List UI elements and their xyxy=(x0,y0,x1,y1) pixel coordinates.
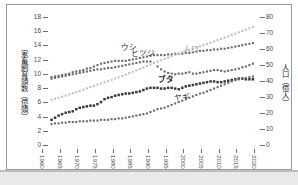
bottom-tick xyxy=(201,149,202,153)
series-label-hitsuji: ヒツジ xyxy=(131,50,155,58)
right-tick-label: 10 xyxy=(266,126,273,133)
right-tick xyxy=(260,97,265,98)
left-tick xyxy=(43,17,48,18)
x-tick-label: 2015 xyxy=(233,155,239,169)
bottom-tick xyxy=(130,149,131,153)
series-ushi xyxy=(50,42,254,78)
left-tick-label: 16 xyxy=(27,28,41,35)
series-label-buta: ブタ xyxy=(158,76,174,84)
series-yagi xyxy=(50,75,254,125)
right-tick-label: 60 xyxy=(266,46,273,53)
left-tick-label: 18 xyxy=(27,14,41,21)
chart-screenshot: 家畜飼育頭数（億頭） 人口（億人） ウシ ヒツジ ブタ ヤギ 人口 024681… xyxy=(0,0,298,185)
x-tick-label: 2000 xyxy=(180,155,186,169)
left-tick xyxy=(43,88,48,89)
plot-area: ウシ ヒツジ ブタ ヤギ 人口 xyxy=(48,21,260,149)
bottom-tick xyxy=(236,149,237,153)
bottom-band xyxy=(0,172,298,185)
bottom-tick xyxy=(42,149,43,153)
bottom-tick xyxy=(60,149,61,153)
right-tick xyxy=(260,145,265,146)
x-tick-label: 1995 xyxy=(163,155,169,169)
bottom-tick xyxy=(95,149,96,153)
right-tick xyxy=(260,129,265,130)
left-tick xyxy=(43,31,48,32)
series-label-jinko: 人口 xyxy=(183,46,199,54)
series-jinko xyxy=(50,26,254,101)
right-tick-label: 50 xyxy=(266,62,273,69)
series-label-yagi: ヤギ xyxy=(174,94,190,102)
left-tick xyxy=(43,102,48,103)
bottom-tick xyxy=(148,149,149,153)
x-tick-label: 1960 xyxy=(39,155,45,169)
x-tick-label: 2005 xyxy=(198,155,204,169)
left-tick-label: 4 xyxy=(27,113,41,120)
bottom-tick xyxy=(219,149,220,153)
right-tick xyxy=(260,33,265,34)
left-tick-label: 2 xyxy=(27,128,41,135)
right-tick-label: 40 xyxy=(266,78,273,85)
x-tick-label: 1985 xyxy=(127,155,133,169)
x-tick-label: 2020 xyxy=(251,155,257,169)
bottom-tick xyxy=(254,149,255,153)
right-tick xyxy=(260,49,265,50)
left-tick-label: 0 xyxy=(27,142,41,149)
bottom-tick xyxy=(113,149,114,153)
series-hitsuji xyxy=(50,60,254,79)
x-tick-label: 1965 xyxy=(57,155,63,169)
x-tick-label: 1975 xyxy=(92,155,98,169)
x-tick-label: 1970 xyxy=(74,155,80,169)
left-tick xyxy=(43,74,48,75)
left-tick xyxy=(43,131,48,132)
left-tick xyxy=(43,117,48,118)
series-buta xyxy=(50,77,254,121)
x-tick-label: 1990 xyxy=(145,155,151,169)
left-tick-label: 10 xyxy=(27,71,41,78)
right-tick-label: 70 xyxy=(266,30,273,37)
right-tick xyxy=(260,65,265,66)
left-tick xyxy=(43,145,48,146)
x-tick-label: 2010 xyxy=(216,155,222,169)
left-tick-label: 6 xyxy=(27,99,41,106)
left-tick-label: 12 xyxy=(27,56,41,63)
right-tick-label: 80 xyxy=(266,14,273,21)
bottom-tick xyxy=(166,149,167,153)
bottom-tick xyxy=(183,149,184,153)
left-tick-label: 8 xyxy=(27,85,41,92)
right-axis-title: 人口（億人） xyxy=(279,47,291,121)
left-tick xyxy=(43,60,48,61)
right-tick-label: 0 xyxy=(266,142,270,149)
x-tick-label: 1980 xyxy=(110,155,116,169)
left-tick-label: 14 xyxy=(27,42,41,49)
series-svg xyxy=(48,21,260,149)
chart-frame: 家畜飼育頭数（億頭） 人口（億人） ウシ ヒツジ ブタ ヤギ 人口 024681… xyxy=(6,4,292,170)
right-tick xyxy=(260,81,265,82)
right-tick xyxy=(260,113,265,114)
bottom-tick xyxy=(77,149,78,153)
left-tick xyxy=(43,45,48,46)
right-tick-label: 20 xyxy=(266,110,273,117)
right-tick xyxy=(260,17,265,18)
right-tick-label: 30 xyxy=(266,94,273,101)
